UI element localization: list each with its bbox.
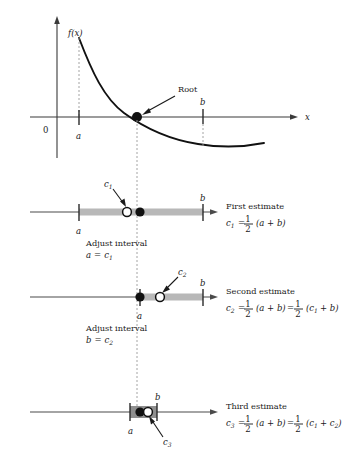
first-formula-term: (a + b) [256, 218, 286, 228]
step-row-third: c3 a b Third estimate c3 = 1 2 (a + b) =… [30, 392, 342, 448]
first-adjust-assignment: a=c1 [86, 250, 113, 261]
third-formula-numerator2: 1 [295, 414, 300, 424]
first-estimate-title: First estimate [226, 201, 284, 211]
y-axis-arrowhead [54, 16, 60, 24]
second-root-dot [135, 292, 144, 301]
second-formula-term2: (c1+ b) [306, 303, 339, 314]
third-tick-b-label: b [155, 392, 160, 402]
second-tick-a-label: a [137, 311, 142, 321]
first-formula-numerator: 1 [245, 214, 250, 224]
first-adjust-label: Adjust interval [85, 238, 148, 248]
step-row-second: c2 a b Second estimate c2 = 1 2 (a + b) … [30, 267, 339, 346]
second-estimate-point [156, 293, 165, 302]
third-estimate-title: Third estimate [226, 401, 287, 411]
first-root-dot [135, 207, 144, 216]
first-tick-b-label: b [200, 193, 205, 203]
third-formula-term1: (a + b) [256, 418, 286, 428]
first-estimate-point [123, 208, 132, 217]
second-formula-eq2: = [287, 303, 294, 313]
third-estimate-point [144, 408, 153, 417]
first-estimate-formula: c1 = 1 2 (a + b) [226, 214, 286, 234]
function-curve [79, 38, 264, 147]
second-adjust-assignment: b=c2 [86, 335, 113, 346]
third-formula-eq2: = [287, 418, 294, 428]
second-formula-term1: (a + b) [256, 303, 286, 313]
second-formula-denominator2: 2 [295, 309, 300, 319]
step-row-first: c1 a b First estimate c1 = 1 2 (a + b) A… [30, 179, 286, 261]
second-formula-eq1: = [238, 303, 245, 313]
third-formula-denominator: 2 [245, 424, 250, 434]
third-tick-a-label: a [128, 426, 133, 436]
first-tick-a-label: a [76, 226, 81, 236]
root-label: Root [178, 84, 198, 94]
third-formula-eq1: = [238, 418, 245, 428]
third-estimate-formula: c3 = 1 2 (a + b) = 1 2 (c1+ c2) [226, 414, 342, 434]
third-formula-lhs: c3 [226, 418, 235, 429]
third-point-label: c3 [163, 437, 172, 448]
graph-tick-a-label: a [76, 131, 81, 141]
second-formula-denominator: 2 [245, 309, 250, 319]
second-formula-numerator2: 1 [295, 299, 300, 309]
function-label: f(x) [67, 28, 83, 38]
second-formula-numerator: 1 [245, 299, 250, 309]
bisection-figure: Root f(x) 0 a b x c1 a b First estimate [0, 0, 348, 458]
second-estimate-title: Second estimate [226, 286, 295, 296]
x-axis-arrowhead [290, 114, 298, 120]
first-formula-eq: = [238, 218, 245, 228]
origin-label: 0 [43, 125, 48, 135]
second-number-line-arrowhead [210, 294, 218, 300]
second-tick-b-label: b [200, 278, 205, 288]
second-adjust-label: Adjust interval [85, 323, 148, 333]
first-number-line-arrowhead [210, 209, 218, 215]
third-formula-numerator: 1 [245, 414, 250, 424]
first-formula-lhs: c1 [226, 218, 235, 229]
second-formula-lhs: c2 [226, 303, 235, 314]
second-interval-band [140, 294, 203, 301]
bisection-diagram-page: Root f(x) 0 a b x c1 a b First estimate [0, 0, 348, 458]
second-point-label: c2 [178, 267, 187, 278]
x-axis-label: x [305, 112, 310, 122]
third-formula-term2: (c1+ c2) [306, 418, 342, 429]
root-pointer-arrowhead [142, 108, 151, 115]
first-formula-denominator: 2 [245, 224, 250, 234]
first-point-label: c1 [104, 179, 113, 190]
root-pointer-line [146, 96, 175, 112]
third-number-line-arrowhead [210, 409, 218, 415]
graph-tick-b-label: b [200, 97, 205, 107]
second-estimate-formula: c2 = 1 2 (a + b) = 1 2 (c1+ b) [226, 299, 339, 319]
third-formula-denominator2: 2 [295, 424, 300, 434]
